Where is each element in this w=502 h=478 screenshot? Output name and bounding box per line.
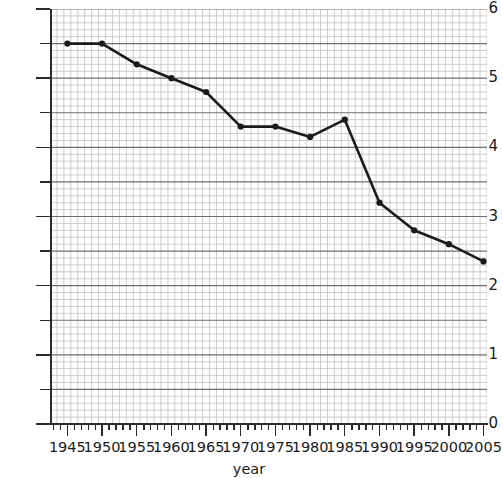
x-tick-minor xyxy=(213,424,214,430)
x-tick-minor xyxy=(178,424,179,430)
x-tick-minor xyxy=(323,424,324,430)
y-tick-minor xyxy=(40,389,50,390)
x-tick-label: 1975 xyxy=(257,440,294,455)
x-tick-minor xyxy=(233,424,234,430)
x-tick-minor xyxy=(455,424,456,430)
x-tick-minor xyxy=(108,424,109,430)
x-tick-label: 1965 xyxy=(188,440,225,455)
y-tick-label: 5 xyxy=(468,70,498,85)
y-tick-major xyxy=(36,354,50,355)
x-tick-minor xyxy=(74,424,75,430)
y-tick-major xyxy=(36,216,50,217)
x-tick-major xyxy=(275,424,276,436)
x-tick-minor xyxy=(185,424,186,430)
x-tick-minor xyxy=(81,424,82,430)
x-tick-minor xyxy=(400,424,401,430)
x-tick-minor xyxy=(393,424,394,430)
x-tick-minor xyxy=(247,424,248,430)
y-tick-minor xyxy=(40,43,50,44)
x-tick-label: 2005 xyxy=(465,440,502,455)
x-tick-minor xyxy=(268,424,269,430)
x-tick-label: 1985 xyxy=(326,440,363,455)
plot-area xyxy=(50,9,487,424)
x-tick-minor xyxy=(441,424,442,430)
y-tick-minor xyxy=(40,112,50,113)
x-tick-label: 2000 xyxy=(430,440,467,455)
x-tick-major xyxy=(101,424,102,436)
x-tick-minor xyxy=(226,424,227,430)
x-tick-label: 1970 xyxy=(222,440,259,455)
y-tick-minor xyxy=(40,181,50,182)
x-tick-major xyxy=(205,424,206,436)
x-tick-major xyxy=(240,424,241,436)
x-tick-label: 1995 xyxy=(396,440,433,455)
x-tick-minor xyxy=(219,424,220,430)
y-tick-label: 1 xyxy=(468,347,498,362)
x-tick-major xyxy=(344,424,345,436)
x-tick-minor xyxy=(95,424,96,430)
x-tick-minor xyxy=(254,424,255,430)
y-tick-major xyxy=(36,77,50,78)
y-tick-label: 2 xyxy=(468,278,498,293)
x-tick-label: 1960 xyxy=(153,440,190,455)
x-tick-minor xyxy=(122,424,123,430)
x-tick-minor xyxy=(261,424,262,430)
x-tick-minor xyxy=(199,424,200,430)
x-tick-minor xyxy=(372,424,373,430)
data-series-layer xyxy=(50,9,487,424)
x-tick-major xyxy=(136,424,137,436)
x-tick-minor xyxy=(421,424,422,430)
x-tick-minor xyxy=(88,424,89,430)
x-tick-label: 1955 xyxy=(118,440,155,455)
y-tick-major xyxy=(36,285,50,286)
x-tick-major xyxy=(379,424,380,436)
x-tick-minor xyxy=(351,424,352,430)
x-axis-title: year xyxy=(0,461,498,477)
x-tick-minor xyxy=(407,424,408,430)
x-tick-minor xyxy=(469,424,470,430)
x-tick-minor xyxy=(60,424,61,430)
x-tick-minor xyxy=(143,424,144,430)
x-tick-minor xyxy=(358,424,359,430)
x-tick-minor xyxy=(337,424,338,430)
x-tick-minor xyxy=(462,424,463,430)
y-tick-major xyxy=(36,423,50,424)
y-axis-line xyxy=(50,9,52,425)
x-tick-minor xyxy=(330,424,331,430)
x-tick-major xyxy=(483,424,484,436)
x-tick-minor xyxy=(434,424,435,430)
x-tick-minor xyxy=(303,424,304,430)
x-tick-label: 1980 xyxy=(292,440,329,455)
x-tick-minor xyxy=(317,424,318,430)
x-tick-major xyxy=(67,424,68,436)
x-tick-minor xyxy=(53,424,54,430)
x-tick-minor xyxy=(192,424,193,430)
x-tick-major xyxy=(171,424,172,436)
x-tick-minor xyxy=(386,424,387,430)
x-tick-minor xyxy=(129,424,130,430)
x-tick-minor xyxy=(296,424,297,430)
x-tick-label: 1950 xyxy=(84,440,121,455)
x-tick-minor xyxy=(115,424,116,430)
x-tick-minor xyxy=(282,424,283,430)
y-tick-major xyxy=(36,8,50,9)
x-tick-major xyxy=(448,424,449,436)
y-tick-major xyxy=(36,147,50,148)
x-tick-minor xyxy=(365,424,366,430)
x-tick-minor xyxy=(150,424,151,430)
x-tick-minor xyxy=(289,424,290,430)
x-tick-label: 1945 xyxy=(49,440,86,455)
x-tick-minor xyxy=(428,424,429,430)
x-tick-major xyxy=(309,424,310,436)
x-tick-minor xyxy=(157,424,158,430)
x-tick-minor xyxy=(164,424,165,430)
y-tick-label: 3 xyxy=(468,209,498,224)
y-tick-minor xyxy=(40,320,50,321)
x-tick-label: 1990 xyxy=(361,440,398,455)
y-tick-label: 6 xyxy=(468,1,498,16)
x-tick-major xyxy=(413,424,414,436)
y-tick-minor xyxy=(40,250,50,251)
x-tick-minor xyxy=(476,424,477,430)
y-tick-label: 4 xyxy=(468,139,498,154)
